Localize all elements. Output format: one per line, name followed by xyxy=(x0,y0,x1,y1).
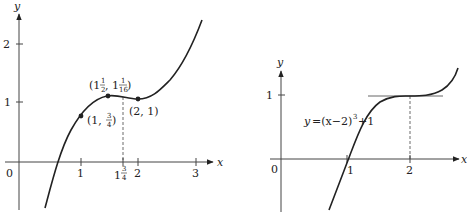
right-x-label: x xyxy=(461,153,467,166)
left-x-tick-label-175-num: 3 xyxy=(122,165,126,173)
right-equation-label: y =(x−2) 3 +1 xyxy=(303,113,374,128)
pt1-num: 3 xyxy=(107,112,111,120)
pt2-b: , 1 xyxy=(105,79,119,92)
left-point-max xyxy=(106,94,111,99)
left-point-1 xyxy=(79,114,84,119)
right-x-tick-label-1: 1 xyxy=(347,164,354,177)
left-point-min-label: (2, 1) xyxy=(129,105,159,118)
right-y-tick-label-1: 1 xyxy=(266,89,273,102)
left-x-label: x xyxy=(217,156,224,169)
pt2-post: ) xyxy=(127,79,131,92)
eq-exp: 3 xyxy=(353,113,357,121)
eq-y: y xyxy=(303,115,311,128)
left-x-tick-label-1: 1 xyxy=(77,167,84,180)
left-y-tick-label-1: 1 xyxy=(4,96,11,109)
left-x-tick-label-3: 3 xyxy=(192,167,199,180)
right-graph: y x 0 1 1 2 y =(x−2) 3 +1 xyxy=(266,56,467,212)
left-x-tick-label-2: 2 xyxy=(134,167,141,180)
left-origin-label: 0 xyxy=(6,167,13,180)
left-point-min xyxy=(136,97,141,102)
eq-end: +1 xyxy=(358,115,374,128)
left-y-label: y xyxy=(13,0,21,13)
right-y-label: y xyxy=(276,56,284,69)
right-origin-label: 0 xyxy=(271,163,278,176)
left-y-tick-label-2: 2 xyxy=(3,38,10,51)
pt1-post: ) xyxy=(112,114,116,127)
pt2-bnum: 1 xyxy=(121,77,125,85)
pt2-a: (1 xyxy=(89,79,100,92)
left-point-max-label: (1 1 2 , 1 1 16 ) xyxy=(89,77,131,94)
right-curve xyxy=(329,68,458,210)
left-x-tick-label-175-den: 4 xyxy=(122,174,127,182)
left-point-1-label: (1, 3 4 ) xyxy=(87,112,116,129)
pt1-pre: (1, xyxy=(87,114,102,127)
left-x-tick-label-175-whole: 1 xyxy=(114,169,121,182)
eq-mid: =(x−2) xyxy=(312,115,352,128)
right-x-tick-label-2: 2 xyxy=(406,164,413,177)
left-graph: y x 0 2 1 1 2 3 1 3 4 (1, 3 xyxy=(3,0,224,210)
figure-canvas: y x 0 2 1 1 2 3 1 3 4 (1, 3 xyxy=(0,0,467,216)
